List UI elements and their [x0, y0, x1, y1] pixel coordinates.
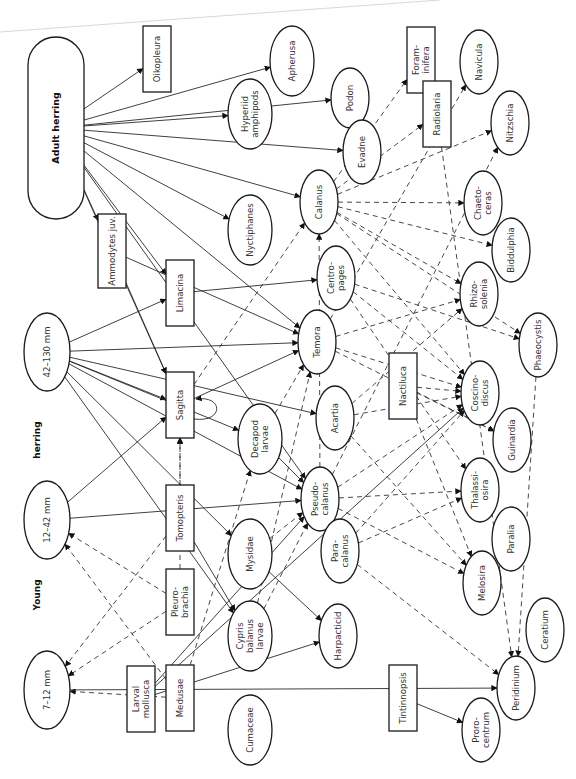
edge-solid-adult-herring-to-hyperiid-amphipods [84, 116, 228, 126]
edge-dashed-mysidae-to-pseudocalanus [270, 513, 303, 539]
decapod-larvae-label-line: Decapod [250, 420, 260, 458]
acartia-label: Acartia [330, 403, 340, 433]
node-sagitta: Sagitta [166, 372, 194, 438]
oikopleura-label: Oikopleura [152, 36, 162, 82]
node-guinardia: Guinardia [493, 408, 531, 472]
ceratium-label-line: Ceratium [540, 610, 550, 650]
apherusa-label: Apherusa [287, 41, 297, 82]
limacina-label-line: Limacina [175, 274, 185, 313]
node-paracalanus: Para-calanus [321, 519, 359, 583]
cypris-balanus-larvae-label-line: balanus [245, 619, 255, 653]
radiolaria-label-line: Radiolaria [432, 93, 442, 136]
node-mysidae: Mysidae [228, 519, 272, 589]
prorocentrum-label-line: centrum [481, 712, 491, 748]
medusae-label-line: Medusae [175, 679, 185, 718]
biddulphia-label: Biddulphia [506, 227, 516, 273]
decapod-larvae-label: Decapodlarvae [250, 420, 270, 458]
podon-label-line: Podon [345, 85, 355, 111]
foraminifera-label-line: inifera [421, 46, 431, 73]
edge-dashed-paracalanus-to-thalassiosira [358, 498, 461, 543]
edge-dashed-pseudocalanus-to-thalassiosira [339, 491, 461, 498]
size-7-12-label: 7–12 mm [42, 670, 52, 710]
sagitta-label-line: Sagitta [175, 390, 185, 421]
pleurobrachia-label: Pleuro-brachia [170, 586, 190, 618]
sagitta-label: Sagitta [175, 390, 185, 421]
cumaceae-label: Cumaceae [245, 707, 255, 753]
cypris-balanus-larvae-label-line: larvae [255, 623, 265, 650]
chaetoceras-label-line: Chaeto- [473, 186, 483, 220]
edge-solid-adult-herring-to-oikopleura [84, 69, 143, 109]
node-larval-mollusca: Larvalmollusca [127, 666, 155, 732]
node-radiolaria: Radiolaria [423, 81, 451, 147]
edge-dashed-paracalanus-to-coscinodiscus [356, 411, 464, 533]
coscinodiscus-label: Coscino-discus [470, 375, 490, 412]
prorocentrum-label: Proro-centrum [471, 712, 491, 748]
phaeocystis-label-line: Phaeocystis [533, 319, 543, 370]
node-nitzschia: Nitzschia [491, 91, 529, 155]
oikopleura-label-line: Oikopleura [152, 36, 162, 82]
node-rhizosolenia: Rhizo-solenia [460, 262, 498, 326]
node-harpacticid: Harpacticid [319, 604, 357, 668]
mysidae-label-line: Mysidae [245, 536, 255, 571]
cypris-balanus-larvae-label-line: Cypris [235, 622, 245, 649]
temora-label: Temora [312, 326, 322, 359]
node-acartia: Acartia [316, 386, 354, 450]
edge-dashed-acartia-to-melosira [351, 436, 466, 566]
edge-dashed-nactiluca-to-coscinodiscus [417, 387, 461, 391]
limacina-label: Limacina [175, 274, 185, 313]
adult-herring-label: Adult herring [50, 92, 61, 163]
harpacticid-label-line: Harpacticid [333, 611, 343, 660]
pleurobrachia-label-line: brachia [180, 586, 190, 618]
group-label-herring: herring [32, 421, 42, 458]
adult-herring-label-line: Adult herring [50, 92, 61, 163]
node-nactiluca: Nactiluca [389, 353, 417, 419]
node-size-12-42: 12–42 mm [24, 481, 70, 559]
edge-solid-ammodytes-juv-to-sagitta [126, 283, 166, 374]
ammodytes-juv-label: Ammodytes juv. [107, 216, 117, 285]
temora-label-line: Temora [312, 326, 322, 359]
edge-dashed-temora-to-rhizosolenia [336, 300, 461, 337]
node-coscinodiscus: Coscino-discus [461, 361, 499, 425]
mysidae-label: Mysidae [245, 536, 255, 571]
nactiluca-label-line: Nactiluca [398, 366, 408, 406]
node-prorocentrum: Proro-centrum [462, 698, 500, 762]
group-label-young: Young [32, 579, 42, 611]
size-42-130-label-line: 42–130 mm [42, 326, 52, 377]
edge-solid-tintinnopsis-to-prorocentrum [417, 704, 463, 723]
node-phaeocystis: Phaeocystis [519, 313, 557, 377]
phaeocystis-label: Phaeocystis [533, 319, 543, 370]
peridinium-label-line: Peridinium [511, 665, 521, 711]
coscinodiscus-label-line: discus [480, 379, 490, 406]
paralia-label-line: Paralia [506, 525, 516, 554]
node-cypris-balanus-larvae: Cyprisbalanuslarvae [228, 601, 272, 671]
peridinium-label: Peridinium [511, 665, 521, 711]
cypris-balanus-larvae-label: Cyprisbalanuslarvae [235, 619, 265, 653]
node-hyperiid-amphipods: Hyperiidamphipods [228, 79, 272, 149]
node-peridinium: Peridinium [497, 656, 535, 720]
size-7-12-label-line: 7–12 mm [42, 670, 52, 710]
guinardia-label-line: Guinardia [507, 419, 517, 461]
biddulphia-label-line: Biddulphia [506, 227, 516, 273]
paracalanus-label-line: calanus [340, 534, 350, 568]
guinardia-label: Guinardia [507, 419, 517, 461]
centropages-label-line: Centro- [326, 262, 336, 294]
ceratium-label: Ceratium [540, 610, 550, 650]
edge-solid-larval-mollusca-to-coscinodiscus [155, 408, 463, 686]
node-limacina: Limacina [166, 260, 194, 326]
nyctiphanes-label-line: Nyctiphanes [245, 203, 255, 257]
evadne-label: Evadne [357, 136, 367, 168]
node-podon: Podon [331, 68, 369, 128]
hyperiid-amphipods-label: Hyperiidamphipods [240, 90, 260, 138]
pseudocalanus-label-line: Pseudo- [310, 482, 320, 516]
navicula-label: Navicula [474, 44, 484, 81]
node-cumaceae: Cumaceae [228, 695, 272, 765]
node-adult-herring: Adult herring [28, 37, 84, 219]
node-thalassiosira: Thalassi-osira [461, 458, 499, 522]
size-12-42-label-line: 12–42 mm [42, 497, 52, 543]
calanus-label: Calanus [314, 184, 324, 219]
food-web-diagram: Adult herringOikopleuraApherusaHyperiida… [0, 0, 576, 779]
acartia-label-line: Acartia [330, 403, 340, 433]
edge-solid-adult-herring-to-podon [84, 100, 331, 125]
node-ceratium: Ceratium [526, 598, 564, 662]
tintinnopsis-label-line: Tintinnopsis [398, 672, 408, 725]
